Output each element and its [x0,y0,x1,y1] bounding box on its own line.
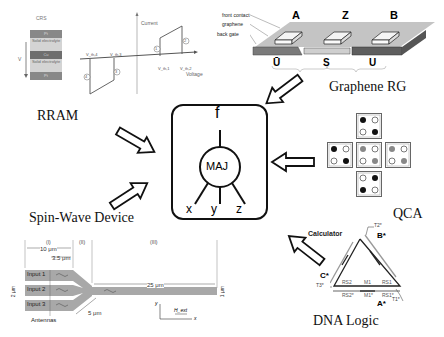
qca-cell-center [357,143,382,168]
dim-5um: 5 μm [88,310,101,316]
input-2-label: Input 2 [27,286,45,292]
dim-2um: 2 μm [10,286,16,297]
axis-y-label: y [155,300,158,306]
arrow-from-spinwave-icon [107,176,152,214]
dna-panel: RS2 M1 RS1 RS2* M1* RS1* Calculator B* C… [330,225,444,310]
svg-text:RS2*: RS2* [342,292,354,298]
axis-x-label: x [194,315,197,321]
dim-10um: 10 μm [40,246,57,252]
section-2-label: (II) [79,239,85,245]
field-label: H_ext [174,307,187,313]
input-1-label: Input 1 [27,271,45,277]
toehold-t2-label: T2* [374,222,382,228]
svg-text:M1*: M1* [364,292,373,298]
vertex-a-label: A* [377,299,386,308]
dna-title: DNA Logic [313,313,379,329]
antennas-label: Antennas [31,317,56,323]
qca-cell-bottom [357,172,382,197]
dim-3-5um: 3.5 μm [52,255,70,261]
arrow-from-qca-icon [272,153,314,171]
svg-text:RS1: RS1 [382,279,392,285]
svg-text:M1: M1 [364,279,371,285]
qca-cell-right [386,143,411,168]
toehold-t1-label: T1* [392,296,400,302]
dim-1um: 1 μm [219,286,225,297]
arrow-from-rram-icon [114,123,159,160]
qca-cells [325,110,415,200]
qca-cell-top [357,114,382,139]
arrow-from-graphene-icon [261,71,305,111]
section-1-label: (I) [46,239,51,245]
section-3-label: (III) [150,239,158,245]
input-3-label: Input 3 [27,301,45,307]
dim-25um: 25 μm [147,282,164,288]
calculator-label: Calculator [308,230,342,237]
toehold-t3-label: T3* [316,282,324,288]
qca-title: QCA [393,206,423,222]
spin-wave-panel: (I) (II) (III) 10 μm 3.5 μm 25 μm 5 μm 2… [0,228,230,328]
svg-text:RS2: RS2 [342,279,352,285]
spin-wave-waveguide [0,228,230,328]
spin-wave-title: Spin-Wave Device [29,210,134,226]
vertex-b-label: B* [377,231,386,240]
dna-triangle: RS2 M1 RS1 RS2* M1* RS1* [330,225,444,310]
vertex-c-label: C* [320,271,329,280]
qca-cell-left [328,143,353,168]
